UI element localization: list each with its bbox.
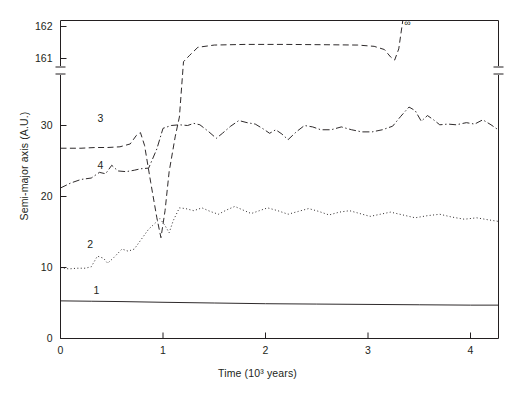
y-tick-20: 20 <box>13 190 53 202</box>
x-tick-1: 1 <box>148 344 178 356</box>
curve-4 <box>61 107 499 188</box>
x-axis-title: Time (10³ years) <box>0 367 515 379</box>
y-axis-title: Semi-major axis (A.U.) <box>18 56 30 276</box>
x-tick-4: 4 <box>456 344 486 356</box>
chart-plot-area <box>0 0 515 396</box>
y-tick-0: 0 <box>13 332 53 344</box>
figure-canvas: Semi-major axis (A.U.) Time (10³ years) … <box>0 0 515 396</box>
curve-label-3: 3 <box>98 112 104 124</box>
y-tick-162: 162 <box>13 20 53 32</box>
y-tick-10: 10 <box>13 261 53 273</box>
x-tick-2: 2 <box>251 344 281 356</box>
curve-label-2: 2 <box>87 238 93 250</box>
curve-1 <box>61 301 499 305</box>
y-tick-30: 30 <box>13 119 53 131</box>
curve-2 <box>61 206 499 268</box>
curve-3 <box>61 20 403 238</box>
x-tick-0: 0 <box>46 344 76 356</box>
infinity-annotation: ∞ <box>404 18 410 28</box>
curve-label-1: 1 <box>93 284 99 296</box>
curve-label-4: 4 <box>98 159 104 171</box>
y-tick-161: 161 <box>13 52 53 64</box>
x-tick-3: 3 <box>353 344 383 356</box>
